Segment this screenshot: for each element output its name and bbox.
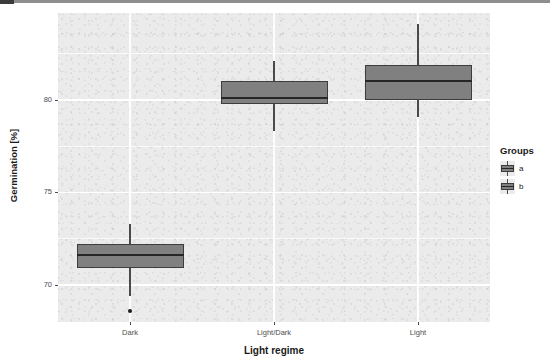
x-tick-label-light: Light [410,328,426,337]
legend-title: Groups [500,145,550,156]
y-tick-label-70: 70 [44,280,52,289]
x-axis-title: Light regime [58,345,490,356]
y-tick-label-80: 80 [44,95,52,104]
y-tick-label-75: 75 [44,187,52,196]
whisker-lower-light-dark [273,104,275,132]
x-tick-mark-dark [130,322,131,325]
whisker-upper-light [417,24,419,65]
gridline-x-light-dark [273,13,274,322]
top-left-corner-strip [0,0,14,4]
legend-key-boxplot-icon [500,179,515,194]
x-tick-mark-light [418,322,419,325]
whisker-lower-dark [129,268,131,296]
top-edge-strip [14,0,550,3]
x-tick-label-light-dark: Light/Dark [257,328,291,337]
legend-key-boxplot-icon [500,161,515,176]
x-tick-mark-light-dark [274,322,275,325]
legend: Groups ab [500,145,550,197]
legend-item-a[interactable]: a [500,161,550,176]
boxplot-chart: 707580 Germination [%] DarkLight/DarkLig… [0,0,550,364]
y-tick-mark-75 [55,192,58,193]
whisker-upper-dark [129,224,131,244]
plot-panel [58,13,490,322]
x-tick-label-dark: Dark [122,328,138,337]
whisker-upper-light-dark [273,61,275,81]
median-line-light-dark [221,97,328,99]
legend-label-a: a [519,164,523,173]
y-tick-mark-80 [55,100,58,101]
outlier-point-dark [128,309,132,313]
legend-label-b: b [519,182,523,191]
y-tick-mark-70 [55,285,58,286]
median-line-dark [77,254,184,256]
y-axis-title: Germination [%] [8,106,19,226]
median-line-light [365,80,472,82]
box-light-dark [221,81,328,103]
whisker-lower-light [417,100,419,117]
legend-items: ab [500,161,550,194]
legend-item-b[interactable]: b [500,179,550,194]
